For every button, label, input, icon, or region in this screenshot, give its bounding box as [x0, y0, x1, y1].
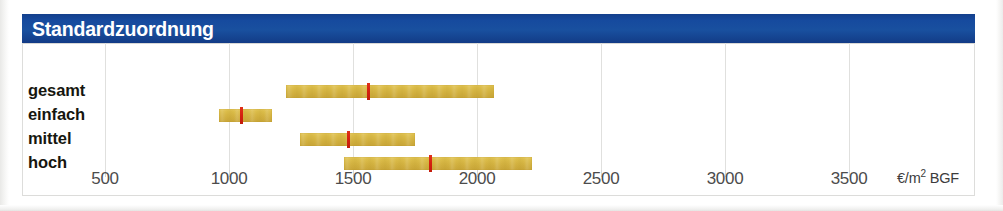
- chart-title: Standardzuordnung: [32, 17, 214, 40]
- x-axis-unit-label: €/m2 BGF: [897, 168, 959, 186]
- plot-border-top: [22, 43, 975, 44]
- page-edge-bottom: [0, 205, 1003, 211]
- bar-hoch: [344, 157, 531, 170]
- median-marker-mittel: [347, 131, 350, 148]
- x-tick-label-1500: 1500: [335, 169, 372, 189]
- gridline-3500: [849, 43, 850, 177]
- plot-border-left: [22, 43, 23, 196]
- gridline-500: [105, 43, 106, 177]
- category-label-gesamt: gesamt: [28, 81, 85, 100]
- chart-title-bar: Standardzuordnung: [22, 14, 975, 43]
- page-edge-right: [996, 0, 1003, 211]
- x-tick-label-2000: 2000: [459, 169, 496, 189]
- x-tick-label-3500: 3500: [831, 169, 868, 189]
- category-label-mittel: mittel: [28, 129, 71, 148]
- x-axis-unit-suffix: BGF: [930, 170, 959, 186]
- x-axis-unit-prefix: €/m: [897, 170, 921, 186]
- bar-gesamt: [286, 85, 494, 98]
- gridline-2500: [601, 43, 602, 177]
- bar-einfach: [219, 109, 272, 122]
- plot-area: gesamt einfach mittel hoch 5001000150020…: [22, 43, 975, 196]
- x-tick-label-1000: 1000: [211, 169, 248, 189]
- plot-border-right: [974, 43, 975, 196]
- x-tick-label-3000: 3000: [707, 169, 744, 189]
- page-edge-left: [0, 0, 9, 211]
- category-label-hoch: hoch: [28, 153, 67, 172]
- median-marker-einfach: [240, 107, 243, 124]
- gridline-3000: [725, 43, 726, 177]
- x-tick-label-500: 500: [91, 169, 118, 189]
- x-axis-unit-superscript: 2: [921, 168, 926, 179]
- median-marker-hoch: [429, 155, 432, 172]
- x-tick-label-2500: 2500: [583, 169, 620, 189]
- chart-figure: Standardzuordnung gesamt einfach mittel …: [0, 0, 1003, 211]
- median-marker-gesamt: [367, 83, 370, 100]
- category-label-einfach: einfach: [28, 105, 85, 124]
- bar-mittel: [300, 133, 415, 146]
- plot-border-bottom: [22, 195, 975, 196]
